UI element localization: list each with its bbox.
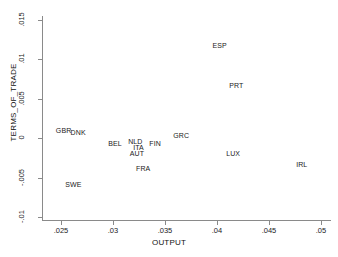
y-tick-label: -.005 [17,162,26,192]
data-point-label: AUT [130,150,144,157]
x-tick-label: .025 [46,226,76,235]
y-tick-label: .005 [17,83,26,113]
y-tick [38,138,42,139]
data-point-label: IRL [296,160,307,167]
data-point-label: DNK [71,128,86,135]
data-point-label: GRC [173,132,189,139]
x-axis-title: OUTPUT [0,238,338,247]
x-tick [165,221,166,225]
scatter-plot-figure: .015.01.0050-.005-.01 .025.03.035.04.045… [0,0,338,257]
data-point-label: LUX [226,150,240,157]
y-tick [38,217,42,218]
y-tick [38,178,42,179]
x-tick-label: .05 [306,226,336,235]
y-tick-label: -.01 [17,202,26,232]
x-tick [61,221,62,225]
x-tick-label: .045 [254,226,284,235]
data-point-label: GBR [56,126,71,133]
data-point-label: FRA [136,164,150,171]
x-axis-line [43,220,331,221]
x-tick-label: .035 [150,226,180,235]
x-tick [217,221,218,225]
plot-area: GBRDNKSWEBELNLDITAAUTFINFRAGRCLUXESPPRTI… [43,16,330,220]
x-tick-label: .04 [202,226,232,235]
x-tick [321,221,322,225]
data-point-label: FIN [149,140,161,147]
data-point-label: SWE [65,180,81,187]
data-point-label: PRT [229,81,243,88]
x-tick [269,221,270,225]
y-tick-label: .01 [17,44,26,74]
y-tick [38,59,42,60]
data-point-label: ESP [212,41,226,48]
x-tick-label: .03 [98,226,128,235]
y-tick [38,99,42,100]
y-axis-title: TERMS_OF_TRADE [9,43,18,163]
y-tick-label: .015 [17,5,26,35]
y-tick [38,20,42,21]
x-tick [113,221,114,225]
y-tick-label: 0 [17,123,26,153]
data-point-label: BEL [108,140,122,147]
